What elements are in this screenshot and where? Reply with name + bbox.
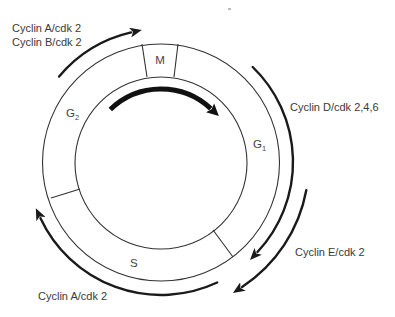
phase-label-g1-subscript: 1 (262, 144, 266, 153)
cyclin-a-arrow-icon (41, 218, 218, 295)
regulator-label-cyclin-b: Cyclin B/cdk 2 (12, 36, 82, 48)
regulator-label-cyclin-a-bottom: Cyclin A/cdk 2 (38, 290, 107, 302)
s-g2-divider (51, 189, 80, 198)
cell-cycle-svg: M G2 G1 S Cyclin A/cdk 2 Cyclin B/cdk 2 … (0, 0, 395, 317)
m-phase-right-divider (174, 44, 178, 77)
phase-label-s: S (130, 257, 138, 269)
phase-label-g2-subscript: 2 (75, 113, 79, 122)
scan-speck (228, 8, 231, 10)
regulator-label-cyclin-d: Cyclin D/cdk 2,4,6 (290, 101, 379, 113)
phase-label-g1: G1 (253, 138, 266, 153)
phase-label-g2-letter: G (66, 107, 75, 119)
cycle-direction-arrow-icon (110, 89, 211, 110)
cell-cycle-diagram: M G2 G1 S Cyclin A/cdk 2 Cyclin B/cdk 2 … (0, 0, 395, 317)
outer-ring (43, 44, 280, 281)
regulator-label-cyclin-a-top: Cyclin A/cdk 2 (12, 22, 81, 34)
phase-label-g1-letter: G (253, 138, 262, 150)
phase-label-m: M (155, 54, 165, 66)
inner-ring (75, 77, 247, 249)
g1-s-divider (213, 230, 233, 257)
phase-label-g2: G2 (66, 107, 79, 122)
m-phase-left-divider (142, 44, 147, 77)
regulator-label-cyclin-e: Cyclin E/cdk 2 (295, 246, 365, 258)
